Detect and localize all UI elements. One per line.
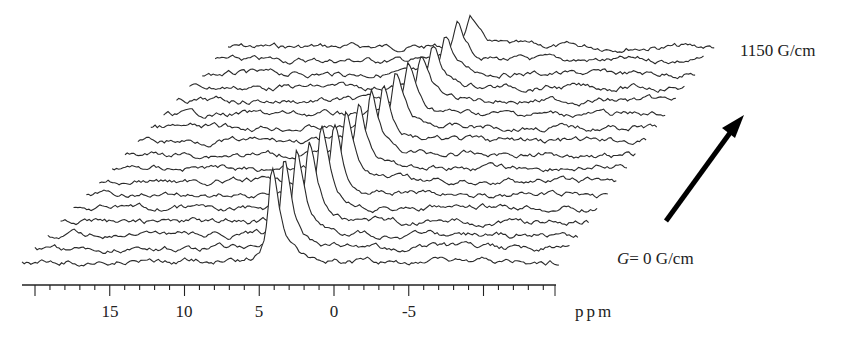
x-tick-label: 0 (330, 302, 339, 322)
x-tick-label: 10 (176, 302, 193, 322)
spectra-traces (22, 16, 714, 275)
gradient-arrow-icon (666, 115, 744, 221)
max-gradient-label: 1150 G/cm (740, 41, 815, 61)
gradient-symbol: G (617, 249, 629, 268)
stacked-spectra-plot (0, 0, 858, 346)
axis-unit-label: ppm (575, 302, 614, 322)
x-tick-label: 15 (102, 302, 119, 322)
x-tick-label: -5 (402, 302, 416, 322)
zero-gradient-label: G= 0 G/cm (617, 249, 694, 269)
zero-gradient-value: = 0 G/cm (629, 249, 693, 268)
x-tick-label: 5 (255, 302, 264, 322)
x-axis (22, 285, 556, 296)
